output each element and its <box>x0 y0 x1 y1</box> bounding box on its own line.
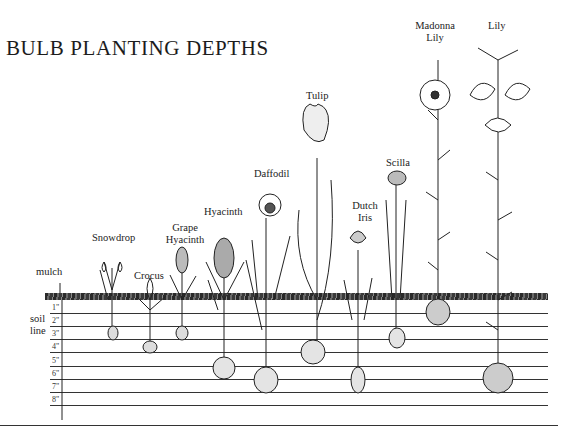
label-hyacinth: Hyacinth <box>204 206 243 218</box>
grape-hyacinth-plant <box>170 247 196 340</box>
label-dutch-iris-2: Iris <box>350 212 380 224</box>
label-dutch-iris-1: Dutch <box>350 200 380 212</box>
crocus-plant <box>136 278 166 353</box>
label-madonna-lily-2: Lily <box>410 32 460 44</box>
snowdrop-plant <box>100 262 122 340</box>
label-daffodil: Daffodil <box>254 168 289 180</box>
madonna-lily-plant <box>420 60 450 325</box>
dutch-iris-plant <box>344 231 372 393</box>
label-snowdrop: Snowdrop <box>92 232 135 244</box>
plant-illustrations <box>0 0 578 443</box>
scilla-plant <box>386 171 406 348</box>
daffodil-plant <box>246 194 290 393</box>
label-scilla: Scilla <box>386 157 410 169</box>
label-tulip: Tulip <box>306 90 328 102</box>
label-crocus: Crocus <box>134 270 164 282</box>
label-grape-hyacinth-1: Grape <box>168 222 202 234</box>
label-lily: Lily <box>488 20 506 32</box>
label-madonna-lily-1: Madonna <box>410 20 460 32</box>
lily-plant <box>470 48 530 393</box>
hyacinth-plant <box>206 238 244 379</box>
label-grape-hyacinth-2: Hyacinth <box>163 234 207 246</box>
tulip-plant <box>298 104 333 364</box>
